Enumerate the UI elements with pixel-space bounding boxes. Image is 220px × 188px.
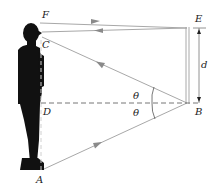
label-E: E — [194, 13, 203, 24]
ray-B-to-C — [42, 37, 187, 103]
label-d: d — [201, 59, 207, 70]
angle-arc-upper — [152, 87, 154, 103]
ray-A-to-B — [44, 103, 187, 169]
ray-E-to-eye — [42, 28, 187, 32]
mirror-ray-diagram: F C D A E B d θ θ — [0, 0, 220, 188]
label-theta-upper: θ — [133, 90, 139, 101]
person-silhouette — [18, 23, 44, 170]
arrow-upleft-icon — [96, 62, 105, 69]
label-B: B — [194, 106, 202, 117]
arrow-right-icon — [91, 19, 100, 24]
arrow-upright-icon — [93, 142, 102, 149]
label-F: F — [41, 9, 50, 20]
arrow-left-icon — [94, 28, 103, 33]
label-A: A — [35, 174, 43, 185]
label-C: C — [42, 39, 50, 50]
label-theta-lower: θ — [133, 107, 139, 118]
mirror — [186, 27, 189, 104]
ray-F-to-E — [40, 23, 187, 28]
angle-arc-lower — [152, 103, 155, 119]
label-D: D — [42, 106, 51, 117]
